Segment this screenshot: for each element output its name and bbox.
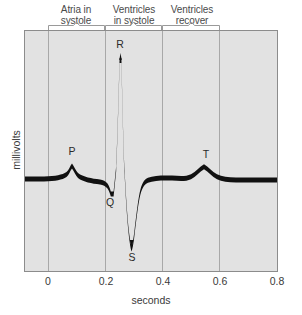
x-tick-label-0.2: 0.2 xyxy=(92,275,120,287)
wave-label-p: P xyxy=(66,145,78,157)
x-tick-label-0: 0 xyxy=(36,275,60,287)
ecg-plot-svg xyxy=(0,0,302,315)
wave-label-s: S xyxy=(126,251,138,263)
x-axis-title: seconds xyxy=(110,294,192,306)
ecg-figure: Atria in systole Ventricles in systole V… xyxy=(0,0,302,315)
x-tick-label-0.6: 0.6 xyxy=(206,275,234,287)
wave-label-q: Q xyxy=(104,196,116,208)
wave-label-t: T xyxy=(200,148,212,160)
plot-background xyxy=(25,31,278,272)
wave-label-r: R xyxy=(114,38,126,50)
x-tick-label-0.4: 0.4 xyxy=(149,275,177,287)
x-tick-label-0.8: 0.8 xyxy=(263,275,291,287)
y-axis-title: millivolts xyxy=(10,119,22,181)
